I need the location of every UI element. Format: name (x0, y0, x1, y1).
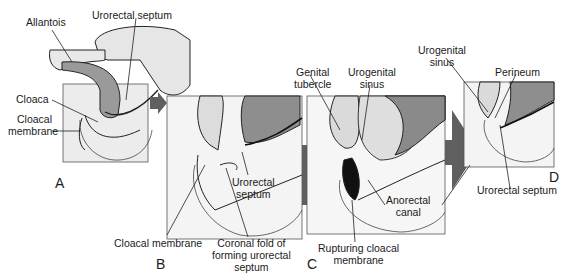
label-anorectal-canal-line2: canal (386, 206, 430, 218)
label-coronal-fold-line1: Coronal fold of (212, 237, 291, 249)
label-coronal-fold: Coronal fold of forming urorectal septum (212, 237, 291, 273)
label-cloacal-membrane-a: Cloacal membrane (8, 113, 52, 137)
panel-b-drawing (167, 96, 302, 239)
label-genital-tubercle: Genital tubercle (294, 66, 331, 90)
label-cloaca: Cloaca (16, 93, 49, 105)
panel-label-c: C (307, 256, 317, 272)
label-cloacal-membrane-b: Cloacal membrane (114, 237, 202, 249)
label-urorectal-septum-a: Urorectal septum (92, 9, 172, 21)
label-rupturing-cloacal-membrane: Rupturing cloacal membrane (318, 242, 399, 266)
label-coronal-fold-line2: forming urorectal (212, 249, 291, 261)
label-rupturing-line2: membrane (318, 254, 399, 266)
panel-d-drawing (464, 82, 554, 167)
label-urogenital-sinus-d: Urogenital sinus (418, 44, 466, 68)
label-genital-tubercle-line2: tubercle (294, 78, 331, 90)
embryology-figure: Allantois Urorectal septum Cloaca Cloaca… (0, 0, 565, 278)
label-urogenital-sinus-d-line2: sinus (418, 56, 466, 68)
label-urorectal-septum-b: Urorectal septum (232, 176, 275, 200)
label-cloacal-membrane-a-line2: membrane (8, 125, 52, 137)
label-anorectal-canal-line1: Anorectal (386, 194, 430, 206)
panel-label-b: B (156, 256, 165, 272)
label-anorectal-canal: Anorectal canal (386, 194, 430, 218)
label-urogenital-sinus-c-line2: sinus (348, 78, 396, 90)
label-coronal-fold-line3: septum (212, 261, 291, 273)
label-urorectal-septum-b-line2: septum (232, 188, 275, 200)
panel-label-d: D (549, 169, 559, 185)
label-rupturing-line1: Rupturing cloacal (318, 242, 399, 254)
label-urogenital-sinus-c-line1: Urogenital (348, 66, 396, 78)
label-genital-tubercle-line1: Genital (294, 66, 331, 78)
panel-label-a: A (55, 175, 64, 191)
label-urogenital-sinus-c: Urogenital sinus (348, 66, 396, 90)
label-urorectal-septum-b-line1: Urorectal (232, 176, 275, 188)
label-allantois: Allantois (26, 16, 66, 28)
label-cloacal-membrane-a-line1: Cloacal (8, 113, 52, 125)
label-urogenital-sinus-d-line1: Urogenital (418, 44, 466, 56)
label-perineum: Perineum (495, 66, 540, 78)
label-urorectal-septum-d: Urorectal septum (477, 184, 557, 196)
